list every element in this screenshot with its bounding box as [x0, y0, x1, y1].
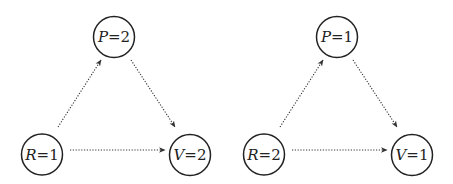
node-v-left: V=2 — [170, 135, 211, 176]
edge-p-to-v-left — [131, 60, 175, 127]
node-label: P=2 — [97, 28, 130, 46]
node-r-right: R=2 — [244, 134, 285, 175]
diagram-right: P=1 R=2 V=1 — [244, 17, 433, 176]
edge-r-to-p-right — [280, 60, 323, 127]
node-label: P=1 — [320, 28, 353, 46]
node-p-left: P=2 — [94, 17, 135, 58]
diagram-left: P=2 R=1 V=2 — [22, 17, 211, 176]
node-label: V=2 — [174, 146, 207, 164]
node-label: R=2 — [246, 146, 280, 164]
node-r-left: R=1 — [22, 134, 63, 175]
node-p-right: P=1 — [317, 17, 358, 58]
edge-p-to-v-right — [353, 60, 397, 127]
node-v-right: V=1 — [392, 135, 433, 176]
node-label: R=1 — [24, 146, 58, 164]
edge-r-to-p-left — [58, 60, 101, 127]
node-label: V=1 — [396, 146, 429, 164]
causal-diagrams: P=2 R=1 V=2 P=1 R=2 V=1 — [0, 0, 453, 184]
